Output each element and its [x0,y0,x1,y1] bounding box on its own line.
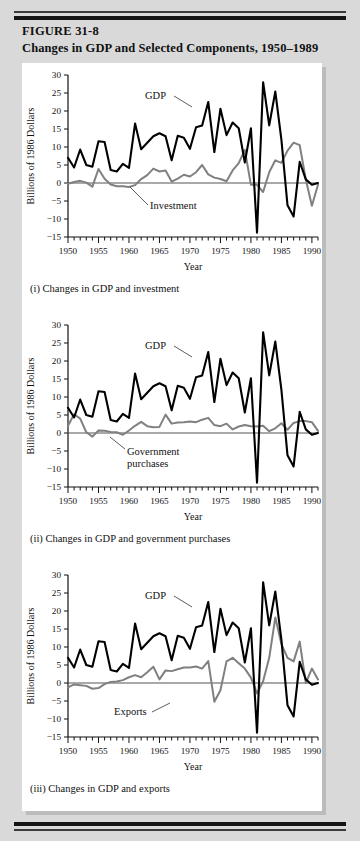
y-tick-label: 20 [52,106,62,116]
chart-subcaption: (i) Changes in GDP and investment [22,282,322,295]
component-series-label: Investment [150,200,197,211]
x-tick-label: 1960 [120,746,139,756]
x-tick-label: 1985 [272,496,291,506]
series-line-gdp [68,582,318,732]
y-tick-label: 10 [52,392,62,402]
figure-header: FIGURE 31-8 Changes in GDP and Selected … [22,24,338,56]
y-axis-title: Billions of 1986 Dollars [25,107,36,204]
component-series-label: Exports [114,706,147,717]
y-tick-label: 5 [56,410,61,420]
chart-subcaption: (ii) Changes in GDP and government purch… [22,532,322,545]
x-tick-label: 1950 [59,496,78,506]
y-tick-label: 0 [56,678,61,688]
series-line-investment [68,143,318,206]
x-tick-label: 1965 [150,496,169,506]
x-tick-label: 1980 [242,496,261,506]
x-axis-title: Year [184,261,203,272]
x-tick-label: 1965 [150,746,169,756]
x-tick-label: 1985 [272,746,291,756]
chart-block-investment: −15−10−505101520253019501955196019651970… [22,63,322,295]
top-thick-rule [14,16,346,20]
x-tick-label: 1970 [181,746,200,756]
x-tick-label: 1970 [181,246,200,256]
y-tick-label: 10 [52,642,62,652]
y-tick-label: −10 [47,214,62,224]
top-thin-rule [14,11,346,13]
component-leader-line [130,187,148,205]
x-tick-label: 1955 [89,246,108,256]
y-tick-label: −10 [47,714,62,724]
gdp-series-label: GDP [145,90,166,101]
chart-gdp-investment: −15−10−505101520253019501955196019651970… [22,63,322,278]
bottom-thick-rule [14,822,346,826]
y-tick-label: −15 [47,482,62,492]
x-axis-title: Year [184,761,203,772]
component-leader-line [110,437,125,449]
y-tick-label: 5 [56,160,61,170]
y-axis-title: Billions of 1986 Dollars [25,607,36,704]
x-tick-label: 1955 [89,746,108,756]
y-tick-label: 15 [52,374,62,384]
x-tick-label: 1990 [303,746,322,756]
x-tick-label: 1960 [120,496,139,506]
figure-title: Changes in GDP and Selected Components, … [22,40,338,56]
x-tick-label: 1955 [89,496,108,506]
gdp-leader-line [174,96,192,107]
x-tick-label: 1975 [211,246,230,256]
y-tick-label: 20 [52,606,62,616]
figure-card: FIGURE 31-8 Changes in GDP and Selected … [0,0,360,841]
y-tick-label: 25 [52,588,62,598]
chart-block-government: −15−10−505101520253019501955196019651970… [22,313,322,545]
y-tick-label: −5 [51,696,61,706]
component-series-label-line2: purchases [127,458,168,469]
y-tick-label: 30 [52,70,62,80]
x-axis-title: Year [184,511,203,522]
x-tick-label: 1970 [181,496,200,506]
bottom-thin-rule [14,829,346,831]
y-tick-label: 20 [52,356,62,366]
y-tick-label: −5 [51,196,61,206]
x-tick-label: 1975 [211,496,230,506]
y-axis-title: Billions of 1986 Dollars [25,357,36,454]
x-tick-label: 1980 [242,246,261,256]
x-tick-label: 1990 [303,496,322,506]
y-tick-label: −5 [51,446,61,456]
figure-number: FIGURE 31-8 [22,24,338,39]
y-tick-label: −15 [47,732,62,742]
chart-block-exports: −15−10−505101520253019501955196019651970… [22,563,322,795]
y-tick-label: 0 [56,178,61,188]
y-tick-label: −10 [47,464,62,474]
chart-subcaption: (iii) Changes in GDP and exports [22,782,322,795]
x-tick-label: 1975 [211,746,230,756]
x-tick-label: 1985 [272,246,291,256]
x-tick-label: 1960 [120,246,139,256]
y-tick-label: 25 [52,88,62,98]
gdp-leader-line [174,596,192,607]
x-tick-label: 1950 [59,746,78,756]
y-tick-label: 10 [52,142,62,152]
component-leader-line [152,703,170,712]
series-line-gdp [68,332,318,482]
y-tick-label: 30 [52,320,62,330]
x-tick-label: 1980 [242,746,261,756]
y-tick-label: 15 [52,124,62,134]
x-tick-label: 1950 [59,246,78,256]
gdp-series-label: GDP [145,340,166,351]
y-tick-label: 5 [56,660,61,670]
y-tick-label: 30 [52,570,62,580]
y-tick-label: 0 [56,428,61,438]
x-tick-label: 1965 [150,246,169,256]
chart-gdp-exports: −15−10−505101520253019501955196019651970… [22,563,322,778]
y-tick-label: 25 [52,338,62,348]
chart-gdp-government: −15−10−505101520253019501955196019651970… [22,313,322,528]
gdp-series-label: GDP [145,590,166,601]
gdp-leader-line [174,346,192,357]
component-series-label: Government [127,446,180,457]
y-tick-label: −15 [47,232,62,242]
x-tick-label: 1990 [303,246,322,256]
charts-panel: −15−10−505101520253019501955196019651970… [22,63,322,811]
y-tick-label: 15 [52,624,62,634]
